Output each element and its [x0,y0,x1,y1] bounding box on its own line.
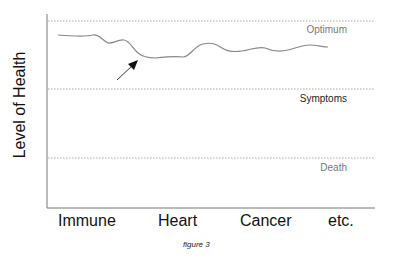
health-curve [58,35,328,58]
arrow-shaft [117,65,133,80]
symptoms-label: Symptoms [300,93,347,104]
death-label: Death [320,162,347,173]
category-cancer: Cancer [240,212,292,230]
y-axis-label: Level of Health [11,52,29,159]
category-etc: etc. [328,212,354,230]
optimum-label: Optimum [306,24,347,35]
category-heart: Heart [158,212,197,230]
y-axis-label-wrap: Level of Health [5,20,35,190]
category-immune: Immune [58,212,116,230]
figure-caption: figure 3 [183,240,210,249]
